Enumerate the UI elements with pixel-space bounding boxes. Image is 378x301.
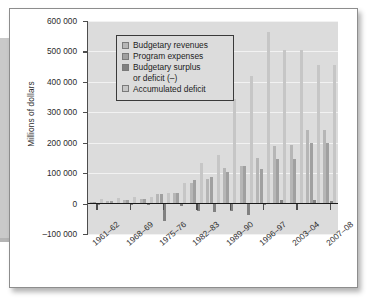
bar [210,177,213,204]
x-tick-mark [130,204,131,210]
y-tick-label: 200 000 [7,138,77,148]
bar [300,50,303,204]
bar [267,32,270,203]
x-tick-mark [263,204,264,210]
legend-swatch-icon-accumulated [122,85,129,92]
legend-label-expenses: Program expenses [133,51,203,61]
bar [243,166,246,203]
bar [213,204,216,213]
y-tick-label: 100 000 [7,168,77,178]
legend-item-program-expenses: Program expenses [122,51,228,61]
bar [233,99,236,204]
legend-label-balance: Budgetary surplus or deficit (–) [133,62,201,82]
bar [183,183,186,203]
y-tick-label: –100 000 [7,229,77,239]
y-tick-label: 400 000 [7,77,77,87]
bar [333,65,336,203]
legend-swatch-icon-revenues [122,42,129,49]
legend-item-budgetary-balance: Budgetary surplus or deficit (–) [122,62,228,82]
bar [217,155,220,204]
x-tick-mark [96,204,97,210]
legend-label-revenues: Budgetary revenues [133,40,208,50]
y-tick-label: 600 000 [7,16,77,26]
chart-legend: Budgetary revenues Program expenses Budg… [116,35,234,101]
x-tick-mark [296,204,297,210]
legend-label-balance-line2: or deficit (–) [133,73,177,83]
gridline [88,21,338,22]
legend-swatch-icon-expenses [122,53,129,60]
x-tick-mark [330,204,331,210]
bar [250,76,253,204]
legend-item-accumulated-deficit: Accumulated deficit [122,84,228,94]
bar [317,65,320,203]
zero-baseline [88,203,338,205]
bar-chart: Millions of dollars 600 000500 000400 00… [10,9,359,289]
legend-item-budgetary-revenues: Budgetary revenues [122,40,228,50]
bar [226,172,229,203]
bar [247,204,250,216]
bar [193,180,196,204]
y-tick-label: 500 000 [7,46,77,56]
bar [293,159,296,203]
bar [310,143,313,203]
figure-card: Millions of dollars 600 000500 000400 00… [9,8,358,288]
bar [283,50,286,204]
bar [326,143,329,204]
y-tick-label: 300 000 [7,107,77,117]
x-tick-mark [196,204,197,210]
bar [200,163,203,204]
legend-label-balance-line1: Budgetary surplus [133,62,201,72]
bar [260,169,263,203]
y-tick-label: 0 [7,199,77,209]
legend-swatch-icon-balance [122,64,129,71]
x-tick-mark [230,204,231,210]
bar [276,159,279,203]
legend-label-accumulated: Accumulated deficit [133,84,206,94]
x-tick-mark [163,204,164,210]
